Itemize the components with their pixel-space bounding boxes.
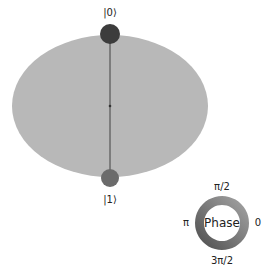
phase-label-zero: 0 [255,218,261,228]
center-dot [109,105,112,108]
qsphere-figure: |0⟩ |1⟩ Phase π/2 π 0 3π/2 [0,0,274,274]
phase-label-three-pi-half: 3π/2 [211,256,233,266]
qsphere-canvas [0,0,274,274]
ket-0-label: |0⟩ [103,8,117,18]
phase-label-pi-half: π/2 [214,182,230,192]
phase-title: Phase [204,217,240,229]
state-1-marker [101,169,119,187]
phase-label-pi: π [183,218,189,228]
ket-1-label: |1⟩ [103,195,117,205]
state-0-marker [100,24,120,44]
